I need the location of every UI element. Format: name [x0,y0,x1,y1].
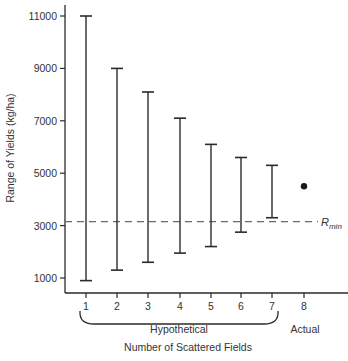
y-tick-label: 1000 [34,272,58,284]
group-label-actual: Actual [290,323,319,335]
range-bar [142,92,154,262]
y-tick-label: 7000 [34,115,58,127]
rmin-label-main: R [321,216,329,228]
range-bar [111,68,123,270]
x-tick-label: 4 [177,300,183,312]
actual-points [301,183,307,189]
x-tick-label: 6 [238,300,244,312]
x-axis: 12345678 [65,293,348,312]
range-bar [266,165,278,217]
range-bar [174,118,186,253]
range-of-yields-chart: 1000300050007000900011000 12345678 Range… [0,0,348,361]
x-tick-label: 2 [114,300,120,312]
y-tick-label: 11000 [29,10,58,22]
actual-point [301,183,307,189]
range-bar [205,144,217,246]
rmin-label-subscript: min [329,222,342,231]
x-tick-label: 1 [83,300,89,312]
group-label-hypothetical: Hypothetical [150,323,208,335]
y-axis-title: Range of Yields (kg/ha) [4,93,16,202]
y-tick-label: 3000 [34,220,58,232]
x-tick-label: 5 [208,300,214,312]
range-bar [80,16,92,281]
x-axis-title: Number of Scattered Fields [124,341,252,353]
range-bars [80,16,278,281]
range-bar [235,157,247,232]
y-axis: 1000300050007000900011000 [29,5,65,293]
x-tick-label: 7 [269,300,275,312]
x-tick-label: 8 [301,300,307,312]
rmin-label: Rmin [321,216,342,231]
y-tick-label: 5000 [34,167,58,179]
y-tick-label: 9000 [34,62,58,74]
x-tick-label: 3 [145,300,151,312]
